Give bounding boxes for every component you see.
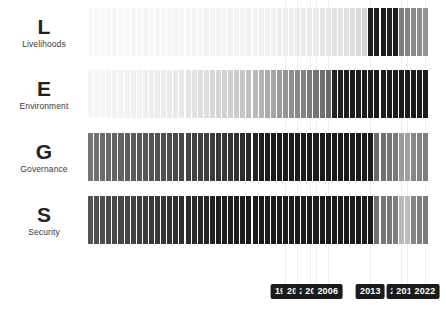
year-bar	[423, 8, 428, 56]
year-bar	[326, 70, 331, 118]
row-label-environment: E Environment	[0, 78, 88, 111]
year-bar	[326, 8, 331, 56]
year-bar	[173, 70, 178, 118]
year-bar	[222, 133, 227, 181]
year-bar	[106, 133, 111, 181]
year-bar	[246, 70, 251, 118]
year-bar	[362, 133, 367, 181]
year-bar	[362, 8, 367, 56]
year-bar	[362, 196, 367, 244]
year-bar	[204, 196, 209, 244]
year-bar	[204, 133, 209, 181]
year-bar	[179, 8, 184, 56]
year-bar	[399, 133, 404, 181]
year-bar	[253, 8, 258, 56]
year-bar	[204, 8, 209, 56]
year-bar	[356, 196, 361, 244]
year-bar	[228, 8, 233, 56]
year-bar	[423, 70, 428, 118]
year-bar	[283, 70, 288, 118]
year-bar	[320, 70, 325, 118]
row-name-security: Security	[0, 228, 88, 237]
year-bar	[271, 70, 276, 118]
year-bar	[143, 133, 148, 181]
year-bar	[161, 8, 166, 56]
year-bar	[271, 8, 276, 56]
year-bar	[332, 70, 337, 118]
year-bar	[167, 8, 172, 56]
barcode-strip-governance	[88, 133, 428, 181]
year-bar	[167, 133, 172, 181]
year-bar	[423, 196, 428, 244]
year-bar	[192, 133, 197, 181]
year-bar	[112, 70, 117, 118]
year-bar	[106, 8, 111, 56]
year-bar	[161, 133, 166, 181]
year-bar	[399, 196, 404, 244]
year-bar	[350, 196, 355, 244]
year-bar	[131, 70, 136, 118]
year-bar	[405, 70, 410, 118]
year-bar	[417, 70, 422, 118]
year-bar	[362, 70, 367, 118]
year-bar	[295, 8, 300, 56]
year-bar	[405, 133, 410, 181]
year-bar	[417, 133, 422, 181]
year-bar	[94, 196, 99, 244]
barcode-strip-security	[88, 196, 428, 244]
year-bar	[381, 196, 386, 244]
year-bar	[149, 196, 154, 244]
year-bar	[338, 196, 343, 244]
year-bar	[350, 8, 355, 56]
year-bar	[411, 133, 416, 181]
year-bar	[155, 8, 160, 56]
year-bar	[179, 133, 184, 181]
year-bar	[313, 133, 318, 181]
year-bar	[374, 70, 379, 118]
year-bar	[192, 196, 197, 244]
year-bar	[100, 70, 105, 118]
year-bar	[253, 70, 258, 118]
year-bar	[344, 8, 349, 56]
year-bar	[100, 133, 105, 181]
year-bar	[94, 8, 99, 56]
year-bar	[301, 8, 306, 56]
year-bar	[283, 8, 288, 56]
year-bar	[295, 70, 300, 118]
year-bar	[186, 8, 191, 56]
year-bar	[387, 133, 392, 181]
year-bar	[179, 196, 184, 244]
barcode-strip-environment	[88, 70, 428, 118]
year-bar	[198, 196, 203, 244]
chart-row-security: S Security	[0, 196, 446, 244]
year-bar	[125, 133, 130, 181]
year-bar	[277, 196, 282, 244]
legs-barcode-figure: L Livelihoods E Environment G Governance…	[0, 0, 446, 314]
year-bar	[259, 70, 264, 118]
year-bar	[228, 196, 233, 244]
year-bar	[246, 133, 251, 181]
year-bar	[240, 8, 245, 56]
year-bar	[368, 8, 373, 56]
year-bar	[198, 70, 203, 118]
year-bar	[265, 133, 270, 181]
year-bar	[137, 70, 142, 118]
year-bar	[179, 70, 184, 118]
year-bar	[112, 196, 117, 244]
year-bar	[106, 70, 111, 118]
year-bar	[131, 196, 136, 244]
year-bar	[216, 70, 221, 118]
row-letter-environment: E	[0, 78, 88, 99]
year-bar	[88, 133, 93, 181]
year-bar	[161, 70, 166, 118]
year-bar	[320, 196, 325, 244]
year-bar	[222, 8, 227, 56]
year-bar	[173, 196, 178, 244]
year-bar	[228, 133, 233, 181]
year-bar	[277, 70, 282, 118]
year-bar	[313, 70, 318, 118]
year-bar	[210, 133, 215, 181]
year-bar	[344, 196, 349, 244]
year-badge: 2013	[356, 284, 385, 299]
year-bar	[271, 133, 276, 181]
